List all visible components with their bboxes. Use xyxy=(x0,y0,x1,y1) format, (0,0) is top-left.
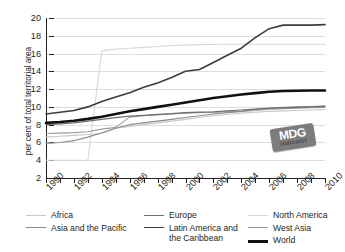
data-series-layer xyxy=(46,18,325,178)
legend-label: Latin America and the Caribbean xyxy=(169,223,243,243)
legend-label: Africa xyxy=(51,210,73,220)
y-axis-tick-label: 10 xyxy=(17,102,41,112)
y-axis-tick-label: 16 xyxy=(17,49,41,59)
chart-legend: AfricaAsia and the PacificEuropeLatin Am… xyxy=(26,210,332,250)
legend-line-swatch xyxy=(248,227,268,228)
y-axis-tick-label: 6 xyxy=(17,137,41,147)
legend-item-africa[interactable]: Africa xyxy=(26,210,144,220)
legend-line-swatch xyxy=(26,227,46,228)
legend-line-swatch xyxy=(26,215,46,216)
legend-label: North America xyxy=(273,210,327,220)
legend-item-latin-america-and-the-caribbean[interactable]: Latin America and the Caribbean xyxy=(144,223,248,243)
legend-item-north-america[interactable]: North America xyxy=(248,210,332,220)
legend-item-world[interactable]: World xyxy=(248,235,332,245)
legend-line-swatch xyxy=(248,215,268,216)
x-axis-tick-label: 2010 xyxy=(323,171,345,193)
legend-line-swatch xyxy=(248,240,268,243)
y-axis-tick-label: 8 xyxy=(17,120,41,130)
y-axis-tick-label: 4 xyxy=(17,155,41,165)
legend-label: West Asia xyxy=(273,223,311,233)
legend-line-swatch xyxy=(144,227,164,228)
legend-column: North AmericaWest AsiaWorld xyxy=(248,210,332,245)
legend-label: World xyxy=(273,235,295,245)
legend-line-swatch xyxy=(144,215,164,216)
legend-item-west-asia[interactable]: West Asia xyxy=(248,223,332,233)
legend-label: Asia and the Pacific xyxy=(51,223,126,233)
series-line-latin-america-and-the-caribbean xyxy=(46,25,325,114)
legend-column: EuropeLatin America and the Caribbean xyxy=(144,210,248,243)
legend-label: Europe xyxy=(169,210,197,220)
legend-column: AfricaAsia and the Pacific xyxy=(26,210,144,233)
y-axis-tick-label: 20 xyxy=(17,13,41,23)
y-axis-tick-label: 14 xyxy=(17,66,41,76)
legend-item-europe[interactable]: Europe xyxy=(144,210,248,220)
y-axis-tick-label: 2 xyxy=(17,173,41,183)
y-axis-tick-label: 12 xyxy=(17,84,41,94)
y-axis-ticks: 2018161412108642 xyxy=(8,18,41,179)
y-axis-tick-label: 18 xyxy=(17,31,41,41)
legend-item-asia-and-the-pacific[interactable]: Asia and the Pacific xyxy=(26,223,144,233)
